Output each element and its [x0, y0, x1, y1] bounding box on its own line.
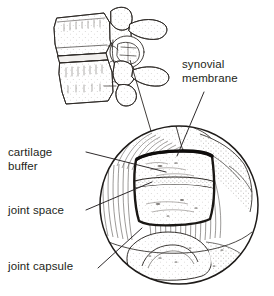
label-joint-space: joint space	[8, 204, 88, 218]
vertebrae-diagram	[54, 7, 169, 106]
label-synovial-membrane: synovial membrane	[182, 58, 270, 85]
label-joint-capsule: joint capsule	[8, 260, 98, 274]
label-synovial-membrane-line1: synovial	[182, 58, 270, 72]
label-cartilage-buffer: cartilage buffer	[8, 146, 84, 173]
label-synovial-membrane-line2: membrane	[182, 72, 270, 86]
label-cartilage-buffer-line1: cartilage	[8, 146, 84, 160]
upper-vertebral-body	[54, 13, 111, 56]
lower-vertebral-body	[59, 60, 113, 104]
label-joint-capsule-line1: joint capsule	[8, 260, 98, 274]
anatomy-figure: synovial membrane cartilage buffer joint…	[0, 0, 274, 296]
label-joint-space-line1: joint space	[8, 204, 88, 218]
magnifier-circle	[96, 122, 260, 286]
label-cartilage-buffer-line2: buffer	[8, 160, 84, 174]
